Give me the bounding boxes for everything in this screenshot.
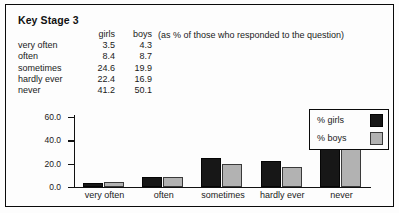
- table-row: hardly ever 22.4 16.9: [18, 74, 156, 85]
- cell-boys: 19.9: [119, 63, 156, 74]
- cell-girls: 8.4: [82, 51, 119, 62]
- x-tick-label: very often: [85, 190, 125, 200]
- table-note: (as % of those who responded to the ques…: [158, 30, 344, 40]
- cell-girls: 41.2: [82, 85, 119, 96]
- y-tick-mark: [68, 117, 74, 118]
- table-row: never 41.2 50.1: [18, 85, 156, 96]
- y-tick-mark: [68, 164, 74, 165]
- cell-girls: 22.4: [82, 74, 119, 85]
- y-tick-label: 40.0: [18, 135, 64, 145]
- row-label: often: [18, 51, 82, 62]
- table-row: often 8.4 8.7: [18, 51, 156, 62]
- bar-group: [75, 117, 134, 187]
- table-header-boys: boys: [119, 29, 156, 40]
- x-axis-line: [74, 187, 371, 188]
- chart-legend: % girls % boys: [309, 109, 389, 150]
- y-tick-label: 0.0: [18, 182, 64, 192]
- legend-item-girls: % girls: [317, 113, 383, 129]
- x-tick-label: sometimes: [201, 190, 245, 200]
- bar-boys: [104, 182, 124, 187]
- page-title: Key Stage 3: [18, 14, 79, 26]
- legend-label-boys: % boys: [317, 133, 347, 143]
- table-row: sometimes 24.6 19.9: [18, 63, 156, 74]
- bar-group: [193, 117, 252, 187]
- cell-boys: 50.1: [119, 85, 156, 96]
- legend-label-girls: % girls: [317, 115, 344, 125]
- row-label: never: [18, 85, 82, 96]
- table-header-row: girls boys: [18, 29, 156, 40]
- bar-girls: [83, 183, 103, 187]
- y-tick-mark: [68, 187, 74, 188]
- bar-girls: [201, 158, 221, 187]
- figure-frame: Key Stage 3 girls boys very often 3.5 4.…: [5, 4, 394, 207]
- cell-boys: 16.9: [119, 74, 156, 85]
- bar-group: [134, 117, 193, 187]
- y-tick-label: 20.0: [18, 158, 64, 168]
- table-header-blank: [18, 29, 82, 40]
- bar-girls: [142, 177, 162, 187]
- bar-boys: [222, 164, 242, 187]
- cell-boys: 4.3: [119, 40, 156, 51]
- table: girls boys very often 3.5 4.3 often 8.4 …: [18, 29, 156, 96]
- x-tick-label: hardly ever: [260, 190, 305, 200]
- table-row: very often 3.5 4.3: [18, 40, 156, 51]
- x-tick-label: never: [330, 190, 353, 200]
- x-tick-label: often: [154, 190, 174, 200]
- y-tick-label: 60.0: [18, 112, 64, 122]
- y-tick-mark: [68, 140, 74, 141]
- bar-group: [253, 117, 312, 187]
- bar-boys: [282, 167, 302, 187]
- row-label: hardly ever: [18, 74, 82, 85]
- cell-boys: 8.7: [119, 51, 156, 62]
- cell-girls: 24.6: [82, 63, 119, 74]
- row-label: sometimes: [18, 63, 82, 74]
- bar-girls: [261, 161, 281, 187]
- figure-root: Key Stage 3 girls boys very often 3.5 4.…: [0, 0, 399, 213]
- table-header-girls: girls: [82, 29, 119, 40]
- row-label: very often: [18, 40, 82, 51]
- legend-item-boys: % boys: [317, 131, 383, 147]
- legend-swatch-girls-icon: [370, 114, 383, 127]
- table-body: very often 3.5 4.3 often 8.4 8.7 sometim…: [18, 40, 156, 96]
- legend-swatch-boys-icon: [370, 132, 383, 145]
- cell-girls: 3.5: [82, 40, 119, 51]
- bar-boys: [163, 177, 183, 187]
- data-table: girls boys very often 3.5 4.3 often 8.4 …: [18, 29, 158, 96]
